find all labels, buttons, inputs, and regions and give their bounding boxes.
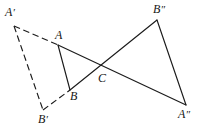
vertex-label-c: C	[98, 72, 106, 84]
vertex-label-a-prime: A′	[5, 6, 15, 18]
figure-canvas	[0, 0, 204, 130]
segment-b-bdprime	[70, 20, 157, 90]
vertex-label-text: B	[70, 89, 78, 103]
vertex-label-prime: ′	[46, 113, 48, 125]
vertex-label-prime: ″	[186, 108, 191, 120]
segment-aprime-bprime	[14, 26, 43, 110]
segment-bdprime-adprime	[157, 20, 186, 105]
vertex-label-text: A	[5, 5, 13, 19]
vertex-label-text: B	[38, 112, 46, 126]
vertex-label-a: A	[55, 29, 63, 41]
vertex-label-b-dprime: B″	[153, 3, 165, 15]
vertex-label-prime: ″	[161, 3, 166, 15]
geometry-figure: A′ABCB′B″A″	[0, 0, 204, 130]
vertex-label-text: A	[55, 28, 63, 42]
segment-layer	[14, 20, 186, 110]
vertex-label-b: B	[70, 90, 78, 102]
segment-bprime-b	[43, 90, 70, 110]
vertex-label-a-dprime: A″	[178, 108, 190, 120]
vertex-label-text: C	[98, 71, 106, 85]
segment-aprime-a	[14, 26, 58, 45]
segment-a-b	[58, 45, 70, 90]
vertex-label-text: B	[153, 2, 161, 16]
vertex-label-text: A	[178, 107, 186, 121]
vertex-label-b-prime: B′	[38, 113, 48, 125]
vertex-label-prime: ′	[13, 6, 15, 18]
